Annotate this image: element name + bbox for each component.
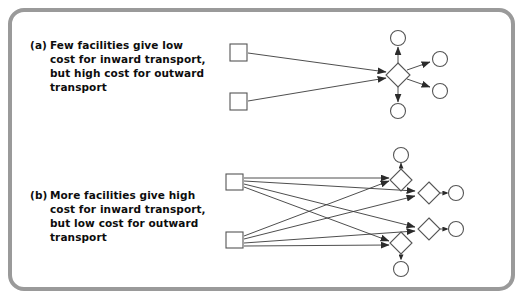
- edge-facility-to-customer-upper-right: [407, 62, 430, 70]
- panel-b-source-square-2: [226, 232, 243, 248]
- panel-b-graphic: [226, 148, 464, 277]
- figure-root: (a)Few facilities give lowcost for inwar…: [0, 0, 531, 307]
- panel-a-facility-diamond-1: [386, 63, 410, 87]
- panel-b-customer-circle-3: [449, 222, 464, 237]
- panel-b-facility-diamond-3: [418, 218, 440, 240]
- panel-a-customer-circle-1: [391, 31, 406, 46]
- panel-b-facility-diamond-4: [390, 232, 412, 254]
- panel-a-source-square-2: [230, 93, 247, 110]
- diagram-canvas: [0, 0, 531, 307]
- edge-b-source-2-to-facility-4: [244, 245, 389, 246]
- edge-source-2-to-facility: [248, 78, 386, 101]
- panel-b-facility-diamond-1: [390, 169, 412, 191]
- panel-b-facility-diamond-2: [418, 182, 440, 204]
- edge-source-1-to-facility: [248, 53, 386, 72]
- panel-a-customer-circle-2: [433, 52, 448, 67]
- panel-a-inward-edges: [248, 53, 386, 101]
- panel-a-source-square-1: [230, 44, 247, 61]
- panel-b-customer-circle-1: [394, 148, 409, 163]
- edge-b-source-1-to-facility-3: [244, 184, 415, 227]
- edge-b-source-1-to-facility-4: [244, 187, 389, 241]
- panel-a-customer-circle-3: [433, 84, 448, 99]
- edge-facility-to-customer-lower-right: [407, 79, 430, 87]
- panel-b-source-square-1: [226, 174, 243, 190]
- panel-a-customer-circle-4: [391, 104, 406, 119]
- panel-b-customer-circle-4: [394, 262, 409, 277]
- edge-b-source-1-to-facility-2: [244, 181, 415, 191]
- panel-a-graphic: [230, 31, 448, 119]
- panel-b-inward-edges: [244, 178, 415, 246]
- panel-b-customer-circle-2: [449, 186, 464, 201]
